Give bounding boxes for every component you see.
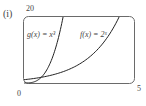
f-curve-label: f(x) = 2ˣ bbox=[80, 30, 107, 39]
f-curve-line bbox=[24, 17, 119, 80]
plot-frame bbox=[24, 17, 135, 84]
g-curve-label: g(x) = x³ bbox=[27, 30, 55, 39]
chart-plot bbox=[0, 0, 146, 106]
